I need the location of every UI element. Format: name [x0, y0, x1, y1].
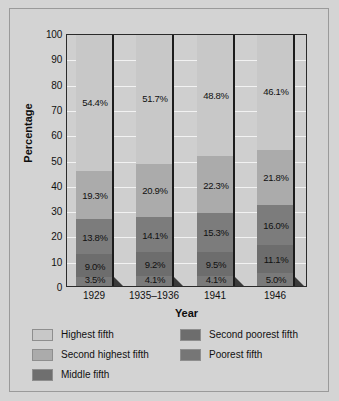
plot-wrapper: 3.5%9.0%13.8%19.3%54.4%4.1%9.2%14.1%20.9…	[66, 34, 307, 287]
x-axis-tick-label: 1941	[204, 290, 226, 301]
bar-value-label: 11.1%	[257, 254, 295, 265]
legend-label: Second poorest fifth	[209, 329, 298, 340]
x-axis-title: Year	[66, 307, 307, 319]
y-axis-tick-label: 60	[51, 130, 62, 141]
bar-column[interactable]: 4.1%9.2%14.1%20.9%51.7%	[136, 34, 174, 286]
y-axis-tick-label: 10	[51, 256, 62, 267]
y-axis-tick-label: 20	[51, 231, 62, 242]
legend-swatch	[32, 369, 53, 381]
chart-legend: Highest fifthSecond highest fifthMiddle …	[32, 327, 322, 387]
plot-area: 3.5%9.0%13.8%19.3%54.4%4.1%9.2%14.1%20.9…	[66, 34, 307, 287]
chart-figure: Percentage 1009080706050403020100 3.5%9.…	[0, 0, 339, 401]
bar-stack: 4.1%9.5%15.3%22.3%48.8%	[197, 34, 235, 286]
bar-value-label: 4.1%	[197, 274, 235, 285]
y-axis-tick-label: 90	[51, 54, 62, 65]
y-axis-tick-label: 30	[51, 206, 62, 217]
bar-value-label: 21.8%	[257, 172, 295, 183]
bar-column[interactable]: 4.1%9.5%15.3%22.3%48.8%	[197, 34, 235, 286]
y-axis: 1009080706050403020100	[28, 34, 64, 287]
legend-swatch	[180, 349, 201, 361]
bar-value-label: 4.1%	[136, 274, 174, 285]
x-axis-tick-label: 1946	[264, 290, 286, 301]
bar-value-label: 54.4%	[76, 97, 114, 108]
bar-column[interactable]: 5.0%11.1%16.0%21.8%46.1%	[257, 34, 295, 286]
bar-value-label: 46.1%	[257, 86, 295, 97]
legend-item[interactable]: Second highest fifth	[32, 347, 149, 362]
bar-value-label: 51.7%	[136, 93, 174, 104]
y-axis-tick-label: 0	[57, 282, 62, 293]
bar-column[interactable]: 3.5%9.0%13.8%19.3%54.4%	[76, 34, 114, 286]
bar-shadow	[114, 277, 123, 286]
bar-value-label: 20.9%	[136, 185, 174, 196]
bar-value-label: 13.8%	[76, 232, 114, 243]
bar-value-label: 16.0%	[257, 220, 295, 231]
y-axis-tick-label: 40	[51, 180, 62, 191]
bar-value-label: 19.3%	[76, 190, 114, 201]
bar-value-label: 9.2%	[136, 259, 174, 270]
bar-value-label: 48.8%	[197, 90, 235, 101]
legend-swatch	[180, 329, 201, 341]
legend-label: Poorest fifth	[209, 349, 262, 360]
bar-value-label: 22.3%	[197, 180, 235, 191]
legend-label: Highest fifth	[61, 329, 114, 340]
legend-item[interactable]: Poorest fifth	[180, 347, 262, 362]
legend-item[interactable]: Middle fifth	[32, 367, 109, 382]
bar-value-label: 9.0%	[76, 261, 114, 272]
x-axis-tick-label: 1929	[83, 290, 105, 301]
bar-value-label: 15.3%	[197, 227, 235, 238]
bar-value-label: 5.0%	[257, 274, 295, 285]
y-axis-tick-label: 100	[46, 29, 62, 40]
x-axis: 19291935–193619411946	[66, 290, 307, 306]
y-axis-tick-label: 70	[51, 104, 62, 115]
y-axis-tick-label: 50	[51, 155, 62, 166]
legend-swatch	[32, 329, 53, 341]
x-axis-tick-label: 1935–1936	[129, 290, 179, 301]
chart-frame: Percentage 1009080706050403020100 3.5%9.…	[9, 8, 329, 392]
bar-stack: 3.5%9.0%13.8%19.3%54.4%	[76, 34, 114, 286]
y-axis-tick-label: 80	[51, 79, 62, 90]
legend-label: Middle fifth	[61, 369, 109, 380]
bar-shadow	[295, 277, 304, 286]
bar-stack: 5.0%11.1%16.0%21.8%46.1%	[257, 34, 295, 286]
legend-label: Second highest fifth	[61, 349, 149, 360]
bar-value-label: 9.5%	[197, 259, 235, 270]
bar-shadow	[174, 277, 183, 286]
bar-shadow	[235, 277, 244, 286]
legend-swatch	[32, 349, 53, 361]
bar-value-label: 14.1%	[136, 230, 174, 241]
bar-stack: 4.1%9.2%14.1%20.9%51.7%	[136, 34, 174, 286]
legend-item[interactable]: Highest fifth	[32, 327, 114, 342]
legend-item[interactable]: Second poorest fifth	[180, 327, 298, 342]
